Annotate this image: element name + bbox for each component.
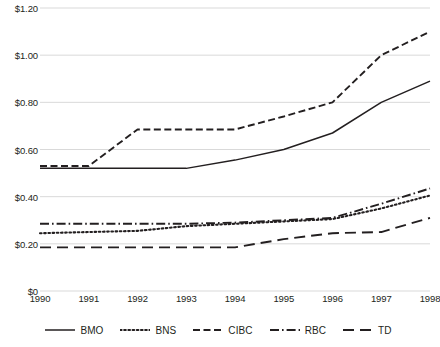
legend-swatch-longdash-icon [343,325,373,335]
series-lines [40,8,430,291]
y-tick-label: $1.20 [15,3,38,14]
series-line-bmo [40,81,430,168]
legend-swatch-dotted-icon [120,325,150,335]
series-line-cibc [40,32,430,166]
legend-swatch-dashed-icon [193,325,223,335]
legend-label: BMO [80,325,103,336]
x-tick-label: 1992 [127,293,148,304]
x-tick-label: 1994 [225,293,246,304]
x-tick-label: 1993 [176,293,197,304]
series-line-rbc [40,188,430,223]
x-tick-label: 1990 [30,293,51,304]
legend-swatch-dashdot-icon [270,325,300,335]
legend-swatch-solid-icon [45,325,75,335]
x-axis: 199019911992199319941995199619971998 [40,293,430,309]
y-tick-label: $0.60 [15,144,38,155]
x-tick-label: 1991 [78,293,99,304]
legend-label: BNS [155,325,176,336]
legend-item-cibc[interactable]: CIBC [193,325,252,336]
x-tick-label: 1995 [273,293,294,304]
plot-area [40,8,430,291]
legend-label: CIBC [228,325,252,336]
y-tick-label: $0.80 [15,97,38,108]
chart-legend: BMOBNSCIBCRBCTD [0,320,437,340]
x-tick-label: 1996 [322,293,343,304]
legend-item-td[interactable]: TD [343,325,392,336]
series-line-bns [40,195,430,233]
x-tick-label: 1998 [420,293,440,304]
y-tick-label: $1.00 [15,50,38,61]
y-tick-label: $0.20 [15,238,38,249]
legend-item-bns[interactable]: BNS [120,325,176,336]
legend-item-rbc[interactable]: RBC [270,325,326,336]
legend-item-bmo[interactable]: BMO [45,325,103,336]
x-tick-label: 1997 [371,293,392,304]
legend-label: RBC [305,325,326,336]
y-tick-label: $0.40 [15,191,38,202]
legend-label: TD [378,325,392,336]
y-axis: $0$0.20$0.40$0.60$0.80$1.00$1.20 [0,8,38,291]
